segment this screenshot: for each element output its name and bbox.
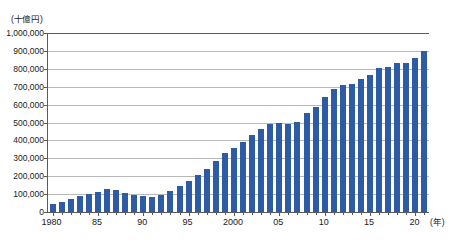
bar — [322, 97, 328, 212]
bar — [204, 169, 210, 212]
y-axis-tick-label: 1,000,000 — [0, 29, 44, 38]
x-axis-tick-label: 85 — [92, 217, 102, 228]
x-axis-tick-mark — [370, 212, 371, 216]
bar — [267, 124, 273, 212]
x-axis-tick-marks — [48, 212, 429, 216]
bar — [122, 193, 128, 213]
bar — [186, 181, 192, 212]
x-axis-tick-mark — [397, 212, 398, 215]
x-axis-tick-mark — [180, 212, 181, 215]
x-axis-tick-mark — [161, 212, 162, 215]
x-axis-tick-mark — [152, 212, 153, 215]
x-axis-tick-mark — [80, 212, 81, 215]
bar — [68, 199, 74, 212]
x-axis-tick-mark — [415, 212, 416, 216]
x-axis-tick-mark — [343, 212, 344, 215]
bar — [59, 202, 65, 212]
x-axis-tick-mark — [216, 212, 217, 215]
x-axis-tick-mark — [270, 212, 271, 215]
bar — [285, 124, 291, 212]
bar — [104, 189, 110, 212]
y-axis-tick-label: 900,000 — [0, 47, 44, 56]
bar — [358, 79, 364, 212]
bar — [367, 75, 373, 212]
x-axis-tick-mark — [189, 212, 190, 216]
x-axis-tick-mark — [279, 212, 280, 216]
bar — [276, 123, 282, 212]
bar — [240, 142, 246, 212]
x-axis-tick-mark — [71, 212, 72, 215]
y-axis-tick-label: 700,000 — [0, 83, 44, 92]
x-axis-tick-label: 20 — [409, 217, 419, 228]
x-axis-tick-mark — [143, 212, 144, 216]
x-axis-tick-mark — [316, 212, 317, 215]
bar — [294, 122, 300, 212]
x-axis-tick-mark — [116, 212, 117, 215]
x-axis-tick-mark — [288, 212, 289, 215]
x-axis-tick-label: 05 — [273, 217, 283, 228]
x-axis-tick-mark — [325, 212, 326, 216]
bar — [231, 148, 237, 212]
x-axis-tick-mark — [89, 212, 90, 215]
x-axis-tick-label: 1980 — [42, 217, 62, 228]
bar — [77, 196, 83, 212]
bar-series — [48, 33, 429, 212]
x-axis-tick-mark — [307, 212, 308, 215]
bar — [412, 58, 418, 212]
x-axis-tick-label: 15 — [364, 217, 374, 228]
x-axis-tick-mark — [424, 212, 425, 215]
bar — [158, 195, 164, 212]
bar — [313, 107, 319, 212]
x-axis-tick-mark — [334, 212, 335, 215]
bar — [149, 197, 155, 212]
x-axis-tick-mark — [388, 212, 389, 215]
x-axis-tick-label: 95 — [183, 217, 193, 228]
x-axis-tick-mark — [406, 212, 407, 215]
x-axis-tick-mark — [134, 212, 135, 215]
bar — [304, 113, 310, 212]
y-axis-unit-label: (十億円) — [11, 12, 43, 24]
x-axis-tick-mark — [225, 212, 226, 215]
x-axis-tick-mark — [198, 212, 199, 215]
x-axis-tick-labels: 1980859095200005101520 — [47, 217, 428, 231]
x-axis-tick-mark — [234, 212, 235, 216]
bar — [177, 186, 183, 212]
bar — [331, 89, 337, 212]
bar — [195, 175, 201, 212]
bar — [421, 51, 427, 212]
bar — [50, 204, 56, 212]
x-axis-tick-mark — [361, 212, 362, 215]
bar — [258, 129, 264, 212]
y-axis-tick-label: 0 — [0, 208, 44, 217]
x-axis-tick-mark — [53, 212, 54, 216]
y-axis-tick-label: 500,000 — [0, 119, 44, 128]
y-axis-tick-label: 600,000 — [0, 101, 44, 110]
x-axis-tick-mark — [62, 212, 63, 215]
bar-chart-figure: (十億円) 0100,000200,000300,000400,000500,0… — [0, 0, 452, 245]
x-axis-unit-label: (年) — [430, 217, 445, 228]
bar — [349, 84, 355, 212]
x-axis-tick-mark — [170, 212, 171, 215]
bar — [213, 161, 219, 212]
bar — [376, 68, 382, 212]
bar — [86, 194, 92, 212]
bar — [140, 196, 146, 212]
bar — [113, 190, 119, 212]
y-axis-tick-label: 100,000 — [0, 190, 44, 199]
bar — [249, 135, 255, 212]
bar — [385, 67, 391, 212]
y-axis-tick-labels: 0100,000200,000300,000400,000500,000600,… — [0, 33, 44, 212]
y-axis-tick-label: 200,000 — [0, 172, 44, 181]
x-axis-tick-label: 90 — [137, 217, 147, 228]
bar — [394, 63, 400, 212]
y-axis-tick-label: 400,000 — [0, 136, 44, 145]
y-axis-tick-label: 800,000 — [0, 65, 44, 74]
bar — [403, 63, 409, 212]
x-axis-tick-mark — [125, 212, 126, 215]
x-axis-tick-mark — [252, 212, 253, 215]
bar — [131, 195, 137, 212]
bar — [167, 191, 173, 212]
x-axis-tick-mark — [297, 212, 298, 215]
bar — [95, 192, 101, 212]
x-axis-tick-mark — [261, 212, 262, 215]
